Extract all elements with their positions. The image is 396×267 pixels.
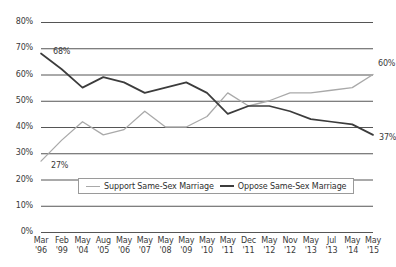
legend-item-support[interactable]: Support Same-Sex Marriage bbox=[86, 182, 214, 191]
data-label-68pct: 68% bbox=[53, 47, 70, 56]
x-tick-month: May bbox=[360, 236, 386, 246]
data-label-60pct: 60% bbox=[378, 59, 395, 68]
y-axis-tick-label: 20% bbox=[3, 175, 33, 184]
y-axis-tick-label: 70% bbox=[3, 43, 33, 52]
y-axis-tick-label: 40% bbox=[3, 122, 33, 131]
chart-legend: Support Same-Sex Marriage Oppose Same-Se… bbox=[78, 178, 354, 194]
x-tick-year: '15 bbox=[360, 246, 386, 256]
data-label-37pct: 37% bbox=[379, 133, 396, 142]
y-axis-tick-label: 50% bbox=[3, 96, 33, 105]
series-line-support bbox=[41, 75, 373, 162]
y-axis-tick-label: 60% bbox=[3, 70, 33, 79]
legend-label-support: Support Same-Sex Marriage bbox=[104, 182, 214, 191]
y-axis-tick-label: 0% bbox=[3, 227, 33, 236]
y-axis-tick-label: 10% bbox=[3, 201, 33, 210]
legend-item-oppose[interactable]: Oppose Same-Sex Marriage bbox=[220, 182, 347, 191]
legend-label-oppose: Oppose Same-Sex Marriage bbox=[238, 182, 347, 191]
data-label-27pct: 27% bbox=[51, 161, 68, 170]
legend-line-swatch-oppose bbox=[220, 185, 234, 187]
series-line-oppose bbox=[41, 54, 373, 135]
legend-line-swatch-support bbox=[86, 186, 100, 187]
series-lines bbox=[41, 54, 373, 162]
y-axis-tick-label: 30% bbox=[3, 148, 33, 157]
x-axis-tick-label: May'15 bbox=[360, 236, 386, 256]
y-axis-tick-label: 80% bbox=[3, 17, 33, 26]
